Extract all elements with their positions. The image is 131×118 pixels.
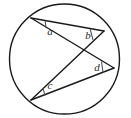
geometry-figure-container: a b c d <box>0 0 131 118</box>
chord-group <box>31 18 114 100</box>
chord-c-to-d <box>31 68 114 100</box>
angle-arc-d <box>102 62 104 73</box>
angle-label-d: d <box>94 61 100 73</box>
main-circle <box>10 4 120 114</box>
angle-arc-a <box>45 21 46 28</box>
angle-label-b: b <box>85 29 91 41</box>
circle-inscribed-angles-diagram: a b c d <box>0 0 131 118</box>
angle-label-a: a <box>47 25 53 37</box>
angle-label-c: c <box>48 79 53 91</box>
angle-label-group: a b c d <box>47 25 100 91</box>
chord-b-to-c <box>31 31 104 100</box>
